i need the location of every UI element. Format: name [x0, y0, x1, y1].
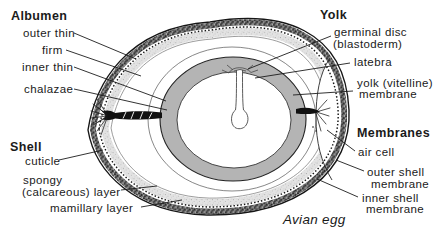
- label-germinal-disc-line1: germinal disc: [334, 26, 407, 38]
- label-chalazae: chalazae: [24, 83, 73, 95]
- label-spongy-line1: spongy: [23, 174, 62, 186]
- caption-avian-egg: Avian egg: [282, 212, 346, 227]
- label-outer-shell-line2: membrane: [371, 178, 429, 190]
- label-membranes-header: Membranes: [357, 126, 430, 140]
- label-spongy-line2: (calcareous) layer: [22, 186, 121, 198]
- egg-cross-section-figure: Albumen outer thin firm inner thin chala…: [0, 0, 438, 234]
- leader-outer-shell-membrane: [336, 160, 364, 171]
- label-germinal-disc-line2: (blastoderm): [333, 38, 402, 50]
- label-air-cell: air cell: [358, 146, 394, 158]
- label-outer-shell-line1: outer shell: [367, 166, 424, 178]
- label-shell-header: Shell: [10, 140, 42, 154]
- label-yolk-header: Yolk: [320, 8, 347, 22]
- avian-egg-diagram: Albumen outer thin firm inner thin chala…: [0, 0, 438, 234]
- label-albumen-header: Albumen: [11, 9, 67, 23]
- leader-inner-shell-membrane: [317, 179, 358, 197]
- label-firm: firm: [42, 44, 63, 56]
- leader-outer-thin: [74, 33, 136, 59]
- label-inner-shell-line2: membrane: [366, 203, 424, 215]
- label-outer-thin: outer thin: [23, 27, 75, 39]
- label-vitelline-line2: membrane: [359, 88, 417, 100]
- label-inner-thin: inner thin: [22, 61, 73, 73]
- label-latebra: latebra: [354, 56, 392, 68]
- label-mamillary-layer: mamillary layer: [50, 202, 133, 214]
- label-cuticle: cuticle: [25, 155, 60, 167]
